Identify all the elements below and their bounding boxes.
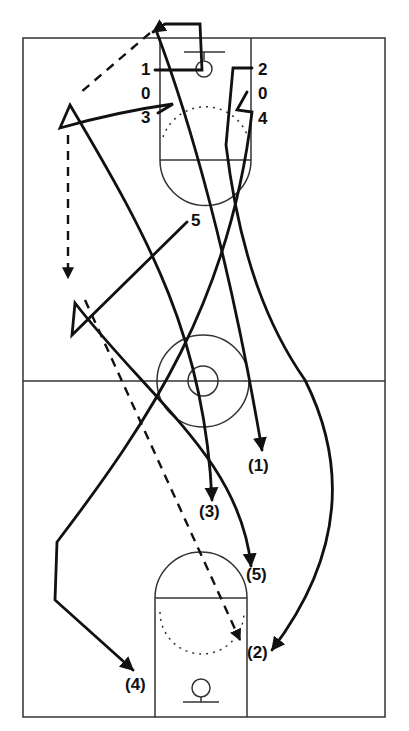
label-player-4: 4 xyxy=(258,109,268,128)
label-player-2: 2 xyxy=(258,60,267,79)
court-boundary xyxy=(23,38,385,717)
court-lines xyxy=(23,38,385,717)
label-end-5: (5) xyxy=(246,565,267,584)
bottom-rim xyxy=(192,679,210,697)
top-key-arc-dotted xyxy=(163,107,248,137)
player-paths xyxy=(55,24,332,670)
label-end-3: (3) xyxy=(199,502,220,521)
path-player-3 xyxy=(60,104,212,500)
label-end-2: (2) xyxy=(247,643,268,662)
bottom-key-arc-dotted xyxy=(160,612,244,654)
label-player-1: 1 xyxy=(141,60,150,79)
pass-1-to-3 xyxy=(80,33,150,93)
label-end-4: (4) xyxy=(125,675,146,694)
basketball-court-diagram: 1 0 3 2 0 4 5 (1) (3) (5) (2) (4) xyxy=(0,0,409,731)
label-player-3: 3 xyxy=(141,108,150,127)
label-defender-1: 0 xyxy=(141,84,150,103)
bottom-key-arc xyxy=(155,552,247,598)
label-defender-2: 0 xyxy=(258,84,267,103)
path-player-2 xyxy=(226,68,332,650)
label-player-5: 5 xyxy=(191,211,200,230)
label-end-1: (1) xyxy=(248,456,269,475)
